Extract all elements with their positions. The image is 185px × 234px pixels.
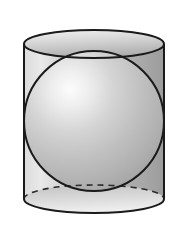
sphere-in-cylinder-diagram: Sphere inscribed in a cylinder Grayscale… [0, 0, 185, 234]
geometry-figure: Sphere inscribed in a cylinder Grayscale… [0, 0, 185, 234]
